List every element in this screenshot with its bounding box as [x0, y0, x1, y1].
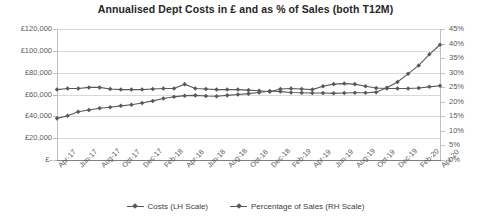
data-point-marker — [150, 99, 155, 104]
data-point-marker — [395, 86, 400, 91]
data-point-marker — [363, 90, 368, 95]
data-point-marker — [342, 91, 347, 96]
legend-label: Percentage of Sales (RH Scale) — [251, 202, 364, 211]
data-point-marker — [374, 90, 379, 95]
data-point-marker — [161, 86, 166, 91]
legend-label: Costs (LH Scale) — [148, 202, 208, 211]
data-point-marker — [76, 109, 81, 114]
data-point-marker — [363, 84, 368, 89]
data-point-marker — [438, 84, 443, 89]
data-point-marker — [119, 104, 124, 109]
data-point-marker — [214, 94, 219, 99]
data-point-marker — [65, 113, 70, 118]
series-layer — [0, 0, 491, 223]
data-point-marker — [87, 85, 92, 90]
data-point-marker — [385, 86, 390, 91]
data-point-marker — [55, 87, 60, 92]
legend-marker-icon — [127, 203, 144, 210]
data-point-marker — [321, 84, 326, 89]
data-point-marker — [150, 87, 155, 92]
data-point-marker — [55, 116, 60, 121]
legend-item-1[interactable]: Costs (LH Scale) — [127, 202, 208, 211]
data-point-marker — [108, 105, 113, 110]
data-point-marker — [331, 91, 336, 96]
data-point-marker — [225, 87, 230, 92]
data-point-marker — [321, 91, 326, 96]
data-point-marker — [119, 87, 124, 92]
data-point-marker — [374, 86, 379, 91]
data-point-marker — [97, 85, 102, 90]
series-line — [57, 45, 440, 119]
data-point-marker — [299, 90, 304, 95]
data-point-marker — [236, 87, 241, 92]
data-point-marker — [140, 101, 145, 106]
data-point-marker — [204, 87, 209, 92]
data-point-marker — [87, 108, 92, 113]
data-point-marker — [236, 92, 241, 97]
data-point-marker — [246, 91, 251, 96]
data-point-marker — [289, 86, 294, 91]
data-point-marker — [331, 82, 336, 87]
data-point-marker — [108, 87, 113, 92]
chart-container: Annualised Dept Costs in £ and as % of S… — [0, 0, 491, 223]
data-point-marker — [182, 82, 187, 87]
legend-marker-icon — [230, 203, 247, 210]
data-point-marker — [427, 85, 432, 90]
data-point-marker — [310, 91, 315, 96]
data-point-marker — [225, 93, 230, 98]
data-point-marker — [97, 106, 102, 111]
data-point-marker — [172, 95, 177, 100]
data-point-marker — [172, 86, 177, 91]
data-point-marker — [353, 90, 358, 95]
data-point-marker — [342, 81, 347, 86]
data-point-marker — [182, 93, 187, 98]
data-point-marker — [353, 82, 358, 87]
data-point-marker — [76, 86, 81, 91]
series-2 — [55, 42, 443, 120]
data-point-marker — [268, 89, 273, 94]
data-point-marker — [204, 94, 209, 99]
data-point-marker — [193, 93, 198, 98]
data-point-marker — [140, 87, 145, 92]
data-point-marker — [289, 90, 294, 95]
data-point-marker — [129, 102, 134, 107]
legend-item-2[interactable]: Percentage of Sales (RH Scale) — [230, 202, 364, 211]
data-point-marker — [65, 86, 70, 91]
data-point-marker — [129, 87, 134, 92]
data-point-marker — [193, 86, 198, 91]
data-point-marker — [161, 96, 166, 101]
data-point-marker — [416, 86, 421, 91]
data-point-marker — [406, 86, 411, 91]
data-point-marker — [214, 87, 219, 92]
chart-legend: Costs (LH Scale)Percentage of Sales (RH … — [0, 202, 491, 211]
